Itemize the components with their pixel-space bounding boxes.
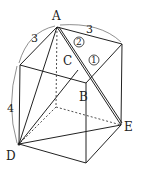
cuboid-edges [19,27,122,163]
label-d: D [6,149,16,163]
label-a: A [51,9,61,23]
dimension-height: 4 [7,102,14,115]
point-d-dot [18,143,21,146]
label-c: C [63,54,72,68]
label-e: E [124,120,133,134]
cuboid-diagram: A B C D E 3 3 4 2 1 [0,0,141,172]
dimension-top-left: 3 [31,32,38,45]
dimension-arcs [12,25,122,143]
label-b: B [79,90,88,104]
circled-label-2: 2 [76,37,82,47]
circled-label-1: 1 [91,55,97,65]
dimension-top-right: 3 [86,23,93,36]
